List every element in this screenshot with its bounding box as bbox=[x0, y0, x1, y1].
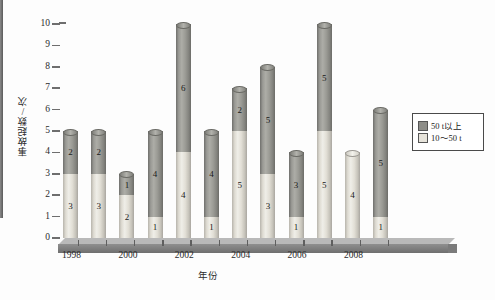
bar-column[interactable]: 25 bbox=[232, 88, 247, 238]
bar-segment-10-to-50t[interactable]: 3 bbox=[260, 174, 275, 238]
legend-item[interactable]: 10～50 t bbox=[418, 133, 479, 143]
legend-label: 10～50 t bbox=[431, 134, 462, 143]
y-axis-tick bbox=[52, 87, 60, 89]
bar-value-label: 4 bbox=[176, 191, 191, 200]
y-axis-tick-label: 7 bbox=[4, 83, 50, 93]
bar-segment-50t-and-above[interactable]: 4 bbox=[204, 131, 219, 217]
bar-segment-50t-and-above[interactable]: 5 bbox=[317, 24, 332, 131]
cylinder-top-ellipse bbox=[148, 129, 163, 136]
bar-segment-10-to-50t[interactable]: 3 bbox=[91, 174, 106, 238]
y-axis-tick-label: 2 bbox=[4, 190, 50, 200]
cylinder-top-ellipse bbox=[91, 129, 106, 136]
legend-label: 50 t以上 bbox=[431, 122, 462, 131]
y-axis-tick bbox=[52, 216, 60, 218]
bar-value-label: 6 bbox=[176, 84, 191, 93]
bar-segment-10-to-50t[interactable]: 3 bbox=[63, 174, 78, 238]
y-axis-tick-label: 8 bbox=[4, 62, 50, 72]
legend-swatch-dark bbox=[418, 121, 428, 131]
y-axis-tick bbox=[52, 237, 60, 239]
x-axis-tick-label: 2008 bbox=[334, 250, 374, 260]
cylinder-top-ellipse bbox=[289, 150, 304, 157]
y-axis-tick bbox=[52, 23, 60, 25]
x-axis-tick bbox=[303, 240, 305, 246]
chart-legend: 50 t以上10～50 t bbox=[412, 113, 484, 151]
bar-column[interactable]: 51 bbox=[373, 110, 388, 238]
x-axis-tick bbox=[78, 240, 80, 246]
bar-value-label: 4 bbox=[148, 169, 163, 178]
bar-segment-10-to-50t[interactable]: 4 bbox=[176, 152, 191, 238]
bar-value-label: 3 bbox=[260, 201, 275, 210]
y-axis-tick-label: 1 bbox=[4, 212, 50, 222]
bar-segment-10-to-50t[interactable]: 5 bbox=[232, 131, 247, 238]
bar-value-label: 1 bbox=[289, 223, 304, 232]
x-axis-title: 年份 bbox=[0, 268, 495, 282]
x-axis-tick-label: 2002 bbox=[164, 250, 204, 260]
cylinder-top-ellipse bbox=[176, 22, 191, 29]
x-axis-tick bbox=[247, 240, 249, 246]
y-axis-title: 事故起数/次 bbox=[16, 96, 30, 156]
floor-right-face bbox=[448, 244, 457, 253]
bar-value-label: 1 bbox=[148, 223, 163, 232]
y-axis-tick bbox=[52, 152, 60, 154]
accident-count-stacked-bar-chart: 012345678910 事故起数/次 23231241644125533155… bbox=[0, 0, 495, 300]
bar-column[interactable]: 41 bbox=[148, 131, 163, 238]
x-axis-tick bbox=[388, 240, 390, 246]
y-axis-tick-label: 9 bbox=[4, 40, 50, 50]
plot-area: 23231241644125533155451 bbox=[60, 24, 410, 238]
bar-column[interactable]: 41 bbox=[204, 131, 219, 238]
bar-segment-10-to-50t[interactable]: 1 bbox=[289, 217, 304, 238]
y-axis-tick-label: 10 bbox=[4, 19, 50, 29]
bar-value-label: 1 bbox=[373, 223, 388, 232]
x-axis-tick-label: 2004 bbox=[221, 250, 261, 260]
x-axis-tick-label: 1998 bbox=[52, 250, 92, 260]
x-axis-tick bbox=[106, 240, 108, 246]
bar-column[interactable]: 64 bbox=[176, 24, 191, 238]
bar-segment-10-to-50t[interactable]: 5 bbox=[317, 131, 332, 238]
bar-segment-50t-and-above[interactable]: 5 bbox=[260, 67, 275, 174]
legend-swatch-light bbox=[418, 133, 428, 143]
y-axis-tick-label: 3 bbox=[4, 169, 50, 179]
bar-segment-10-to-50t[interactable]: 2 bbox=[119, 195, 134, 238]
bar-column[interactable]: 4 bbox=[345, 152, 360, 238]
bar-value-label: 2 bbox=[119, 212, 134, 221]
bar-segment-10-to-50t[interactable]: 1 bbox=[148, 217, 163, 238]
bar-segment-10-to-50t[interactable]: 1 bbox=[373, 217, 388, 238]
bar-value-label: 2 bbox=[63, 148, 78, 157]
cylinder-top-ellipse bbox=[345, 150, 360, 157]
bar-value-label: 5 bbox=[373, 159, 388, 168]
bar-segment-50t-and-above[interactable]: 6 bbox=[176, 24, 191, 152]
cylinder-top-ellipse bbox=[317, 22, 332, 29]
bar-segment-10-to-50t[interactable]: 1 bbox=[204, 217, 219, 238]
bar-value-label: 1 bbox=[119, 180, 134, 189]
bar-value-label: 1 bbox=[204, 223, 219, 232]
bar-column[interactable]: 12 bbox=[119, 174, 134, 238]
bar-column[interactable]: 53 bbox=[260, 67, 275, 238]
bar-value-label: 2 bbox=[232, 105, 247, 114]
cylinder-top-ellipse bbox=[63, 129, 78, 136]
bar-segment-50t-and-above[interactable]: 5 bbox=[373, 110, 388, 217]
bar-value-label: 3 bbox=[91, 201, 106, 210]
y-axis-tick bbox=[52, 194, 60, 196]
x-axis-tick bbox=[331, 240, 333, 246]
bar-segment-50t-and-above[interactable]: 4 bbox=[148, 131, 163, 217]
bar-column[interactable]: 23 bbox=[91, 131, 106, 238]
bar-segment-50t-and-above[interactable]: 1 bbox=[119, 174, 134, 195]
bar-column[interactable]: 31 bbox=[289, 152, 304, 238]
x-axis-tick bbox=[219, 240, 221, 246]
bar-value-label: 2 bbox=[91, 148, 106, 157]
bar-value-label: 3 bbox=[63, 201, 78, 210]
bar-value-label: 5 bbox=[232, 180, 247, 189]
legend-item[interactable]: 50 t以上 bbox=[418, 121, 479, 131]
bar-segment-50t-and-above[interactable]: 2 bbox=[63, 131, 78, 174]
bar-column[interactable]: 23 bbox=[63, 131, 78, 238]
bar-segment-50t-and-above[interactable]: 2 bbox=[91, 131, 106, 174]
bar-segment-50t-and-above[interactable]: 3 bbox=[289, 152, 304, 216]
y-axis-tick bbox=[52, 130, 60, 132]
bar-segment-50t-and-above[interactable]: 2 bbox=[232, 88, 247, 131]
x-axis-tick-label: 2000 bbox=[108, 250, 148, 260]
bar-segment-10-to-50t[interactable]: 4 bbox=[345, 152, 360, 238]
bar-column[interactable]: 55 bbox=[317, 24, 332, 238]
bar-value-label: 5 bbox=[260, 116, 275, 125]
x-axis-tick-label: 2006 bbox=[277, 250, 317, 260]
y-axis-tick bbox=[52, 66, 60, 68]
